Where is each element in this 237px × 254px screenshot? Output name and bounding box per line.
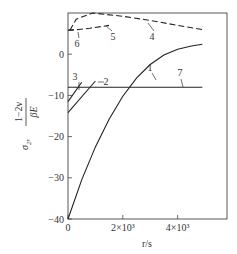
x-tick-label: 4×10³ — [166, 222, 190, 233]
y-tick-label: −10 — [48, 90, 64, 101]
x-tick-label: 0 — [66, 222, 71, 233]
curve-labels: 1234567 — [73, 23, 184, 90]
plot-frame — [68, 13, 227, 219]
y-tick-label: 0 — [59, 49, 64, 60]
x-tick-label: 2×10³ — [111, 222, 135, 233]
svg-text:βE: βE — [28, 106, 39, 118]
curve-label: 3 — [73, 71, 78, 82]
svg-text:1−2ν: 1−2ν — [13, 101, 24, 122]
curve-label: 5 — [111, 31, 116, 42]
curves — [68, 13, 202, 219]
curve-5 — [68, 25, 109, 30]
x-axis-title: r/s — [142, 238, 152, 249]
y-tick-label: −40 — [48, 214, 64, 225]
curve-label: 6 — [75, 38, 80, 49]
svg-text:σ2,: σ2, — [19, 139, 33, 150]
chart: 0−10−20−30−4002×10³4×10³ 1234567 r/s σ2,… — [0, 0, 237, 254]
curve-2 — [68, 81, 95, 113]
y-tick-label: −20 — [48, 131, 64, 142]
curve-label: 7 — [178, 67, 183, 78]
curve-label: 4 — [150, 31, 155, 42]
axis-ticks: 0−10−20−30−4002×10³4×10³ — [48, 49, 189, 233]
curve-label: 2 — [104, 76, 109, 87]
curve-label: 1 — [148, 62, 153, 73]
y-tick-label: −30 — [48, 172, 64, 183]
y-axis-title: σ2, 1−2ν βE — [13, 98, 39, 150]
